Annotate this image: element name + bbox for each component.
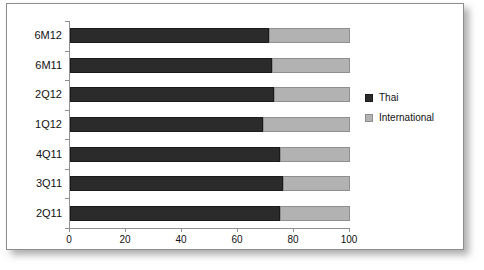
screenshot-root: 020406080100 6M126M112Q121Q124Q113Q112Q1…: [0, 0, 484, 270]
legend-label-international: International: [379, 112, 434, 123]
x-axis-tick-label: 40: [175, 234, 186, 245]
legend-item-international: International: [365, 112, 434, 123]
bar-segment-thai: [70, 58, 272, 73]
bar-segment-international: [272, 58, 350, 73]
legend-label-thai: Thai: [379, 92, 398, 103]
y-axis-tick: [65, 51, 69, 52]
category-label: 6M11: [35, 58, 62, 73]
bar-segment-international: [274, 87, 350, 102]
x-axis-tick-label: 0: [66, 234, 72, 245]
legend-item-thai: Thai: [365, 92, 434, 103]
bar-segment-thai: [70, 87, 274, 102]
x-axis-tick: [181, 228, 182, 232]
bar-row: 1Q12: [70, 117, 350, 132]
y-axis-tick: [65, 21, 69, 22]
y-axis-tick: [65, 198, 69, 199]
bar-segment-thai: [70, 117, 263, 132]
x-axis-tick: [293, 228, 294, 232]
bar-row: 6M11: [70, 58, 350, 73]
bar-row: 2Q12: [70, 87, 350, 102]
bar-segment-thai: [70, 147, 280, 162]
legend-swatch-international-icon: [365, 114, 373, 122]
bar-segment-international: [280, 147, 350, 162]
bar-row: 3Q11: [70, 176, 350, 191]
bar-row: 6M12: [70, 28, 350, 43]
x-axis-tick: [69, 228, 70, 232]
bar-segment-international: [263, 117, 350, 132]
category-label: 2Q12: [35, 87, 62, 102]
bar-segment-international: [280, 206, 350, 221]
bar-segment-international: [283, 176, 350, 191]
legend-swatch-thai-icon: [365, 94, 373, 102]
chart-legend: Thai International: [365, 92, 434, 132]
category-label: 3Q11: [36, 176, 62, 191]
x-axis-tick-label: 100: [341, 234, 358, 245]
x-axis-tick: [125, 228, 126, 232]
category-label: 6M12: [34, 28, 62, 43]
x-axis-tick-label: 80: [287, 234, 298, 245]
x-axis-tick-label: 20: [119, 234, 130, 245]
y-axis-tick: [65, 139, 69, 140]
y-axis-tick: [65, 169, 69, 170]
bar-row: 4Q11: [70, 147, 350, 162]
category-label: 1Q12: [35, 117, 62, 132]
y-axis-tick: [65, 80, 69, 81]
bar-segment-international: [269, 28, 350, 43]
chart-plot-area: 020406080100 6M126M112Q121Q124Q113Q112Q1…: [69, 21, 349, 228]
bar-segment-thai: [70, 176, 283, 191]
x-axis-tick: [237, 228, 238, 232]
x-axis-tick: [349, 228, 350, 232]
category-label: 2Q11: [36, 206, 62, 221]
y-axis-tick: [65, 110, 69, 111]
bar-row: 2Q11: [70, 206, 350, 221]
category-label: 4Q11: [36, 147, 62, 162]
x-axis-line: [69, 228, 350, 229]
scanned-page: 020406080100 6M126M112Q121Q124Q113Q112Q1…: [6, 3, 464, 250]
x-axis-tick-label: 60: [231, 234, 242, 245]
bar-segment-thai: [70, 206, 280, 221]
bar-segment-thai: [70, 28, 269, 43]
